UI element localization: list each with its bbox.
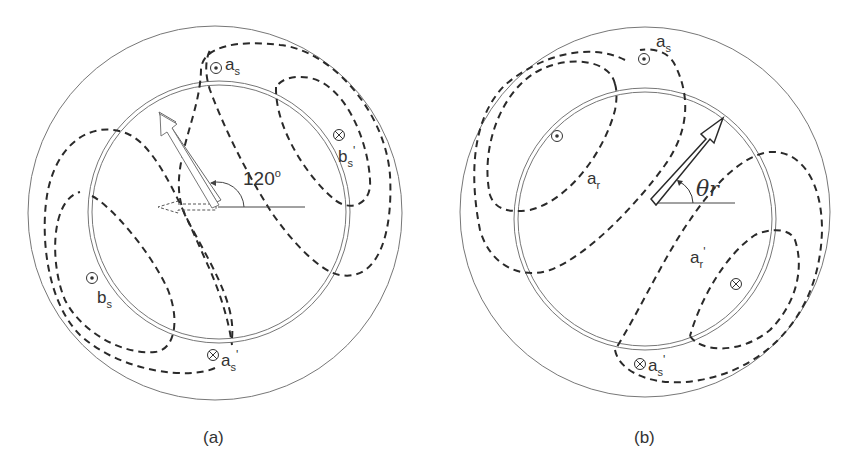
- stator-bore-outer: [88, 81, 350, 343]
- label-bs-prime: bs': [338, 144, 355, 169]
- coil-b-inner-loop: [55, 192, 174, 352]
- previous-mmf-arrow: [158, 201, 216, 213]
- caption-b: (b): [634, 428, 655, 447]
- conductor-as-prime-cross: [208, 350, 219, 361]
- machine-winding-diagram: 120o as bs' bs as: [0, 0, 849, 473]
- label-as-prime-b: as': [648, 353, 665, 378]
- stator-bore-inner: [92, 85, 346, 339]
- conductor-ar-prime-cross: [731, 279, 742, 290]
- label-as: as: [225, 55, 240, 77]
- label-ar-prime: ar': [690, 245, 705, 270]
- coil-b-phase: [45, 130, 232, 374]
- caption-a: (a): [203, 428, 224, 447]
- angle-label-120: 120o: [243, 167, 281, 189]
- stator-bore-outer-b: [514, 88, 776, 350]
- conductor-as-prime-cross-b: [635, 359, 646, 370]
- stator-outer-circle-b: [460, 27, 830, 397]
- label-bs: bs: [97, 288, 112, 310]
- panel-a: 120o as bs' bs as: [28, 26, 402, 447]
- conductor-bs-dot: [87, 273, 98, 284]
- label-ar: ar: [587, 169, 600, 191]
- conductor-as-dot: [211, 63, 222, 74]
- label-as-prime: as': [221, 348, 238, 373]
- coil-bs-prime-loop: [276, 77, 370, 206]
- conductor-bs-prime-cross: [334, 130, 345, 141]
- conductor-ar-dot: [552, 131, 563, 142]
- coil-stator-a: [474, 49, 685, 273]
- conductor-as-dot-b: [639, 54, 650, 65]
- panel-b: θr as ar ar' as': [460, 27, 830, 447]
- label-as-b: as: [656, 32, 671, 54]
- theta-r-label: θr: [696, 176, 720, 201]
